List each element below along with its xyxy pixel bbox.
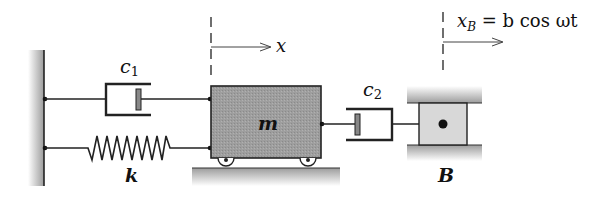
spring-k [43,136,213,160]
damper-c1 [43,84,213,115]
block-b-label: B [437,164,454,186]
diagram-canvas: c1 k m x c2 [0,0,601,198]
ground-under-mass [192,168,340,186]
spring-k-label: k [125,164,138,186]
x-reference [211,17,271,80]
damper-c2-label: c2 [363,78,382,102]
wheel-left-icon [218,158,234,166]
fixed-wall [28,50,44,186]
damper-c1-label: c1 [120,55,139,79]
x-coordinate-label: x [276,35,286,56]
pin-icon [439,120,448,129]
wheel-right-icon [300,158,316,166]
mass-label: m [258,112,278,134]
xb-motion-equation: xB = b cos ωt [457,10,578,34]
